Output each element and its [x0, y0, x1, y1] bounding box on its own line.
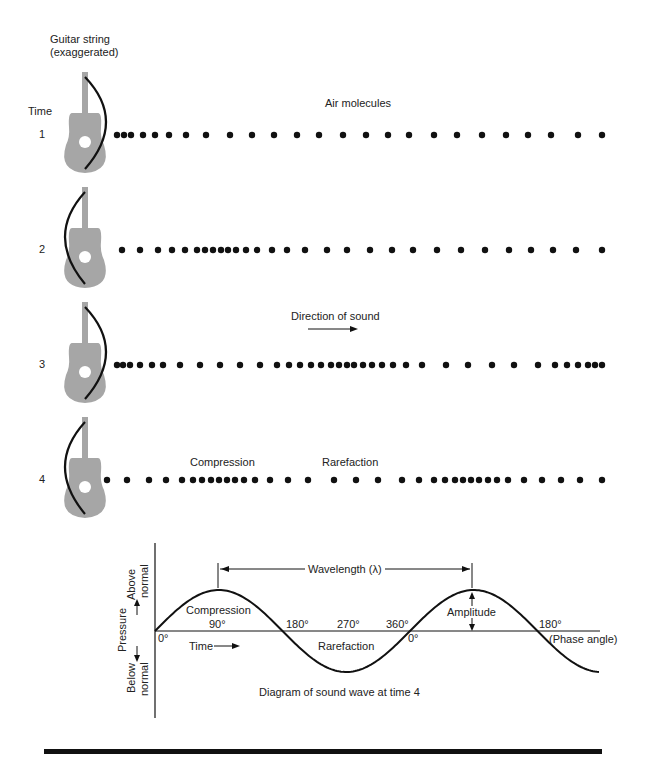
phase-angle-label: (Phase angle): [549, 633, 618, 646]
wave-caption: Diagram of sound wave at time 4: [259, 686, 420, 699]
angle-0: 0°: [158, 632, 169, 645]
wavelength-label: Wavelength (λ): [308, 563, 382, 576]
angle-270: 270°: [337, 618, 360, 631]
above-normal-line1: Above: [125, 569, 137, 600]
wave-compression-label: Compression: [186, 604, 251, 617]
angle-180: 180°: [286, 618, 309, 631]
angle-90: 90°: [209, 618, 226, 631]
above-normal-line2: normal: [138, 564, 150, 598]
angle-360: 360°: [386, 618, 409, 631]
below-normal-line2: normal: [138, 662, 150, 696]
angle-0-second: 0°: [408, 632, 419, 645]
pressure-label: Pressure: [116, 608, 128, 652]
wave-time-label: Time: [189, 640, 213, 653]
angle-180-second: 180°: [539, 618, 562, 631]
amplitude-label: Amplitude: [447, 606, 496, 619]
below-normal-line1: Below: [125, 663, 137, 693]
wave-rarefaction-label: Rarefaction: [318, 640, 374, 653]
bottom-rule: [44, 749, 602, 754]
